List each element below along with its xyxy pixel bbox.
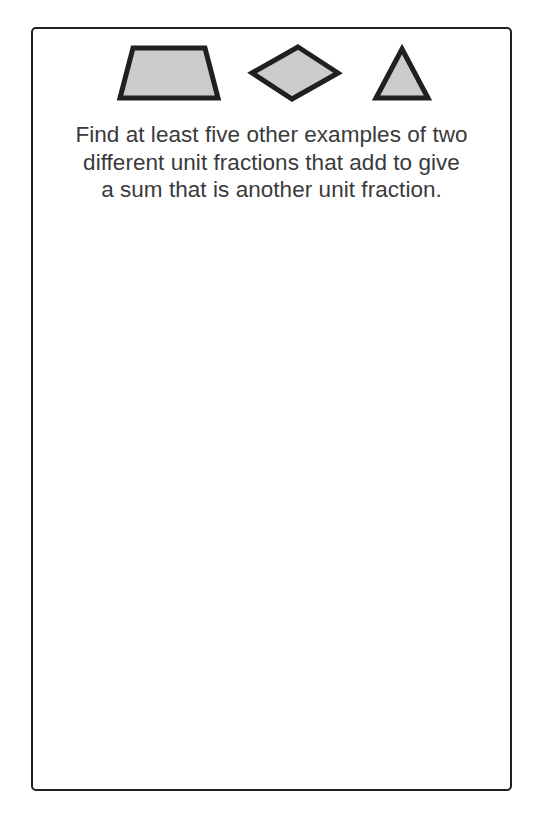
shape-illustration-row xyxy=(33,42,510,104)
trapezium-shape-icon xyxy=(115,42,223,104)
instruction-text: Find at least five other examples of two… xyxy=(55,121,488,204)
instruction-line-2: different unit fractions that add to giv… xyxy=(55,149,488,177)
triangle-polygon xyxy=(376,49,428,98)
trapezium-polygon xyxy=(120,48,218,98)
trapezium-svg xyxy=(115,42,223,104)
rhombus-svg xyxy=(247,42,343,104)
task-card: Find at least five other examples of two… xyxy=(31,27,512,791)
worksheet-page: Find at least five other examples of two… xyxy=(0,0,545,821)
triangle-shape-icon xyxy=(369,42,435,104)
triangle-svg xyxy=(369,42,435,104)
answer-workspace[interactable] xyxy=(33,214,510,789)
rhombus-shape-icon xyxy=(247,42,343,104)
rhombus-polygon xyxy=(252,47,338,99)
instruction-line-1: Find at least five other examples of two xyxy=(55,121,488,149)
instruction-line-3: a sum that is another unit fraction. xyxy=(55,176,488,204)
